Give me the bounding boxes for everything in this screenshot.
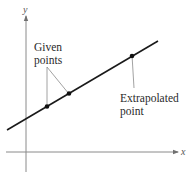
x-axis-label: x <box>180 146 186 157</box>
given-points-leader <box>47 67 69 107</box>
extrapolated-point-label-line1: Extrapolated <box>120 92 179 105</box>
y-axis-label: y <box>22 4 28 15</box>
extrapolated-point-label-line2: point <box>120 105 144 118</box>
extrapolated-point-leader <box>132 55 134 88</box>
extrapolated-point <box>130 54 135 59</box>
given-point-2 <box>67 91 72 96</box>
given-points-label-line2: points <box>34 54 63 67</box>
given-points-label-line1: Given <box>34 41 62 53</box>
diagram-canvas: x y Given points Extrapolated point <box>0 0 192 183</box>
extrapolation-diagram: x y Given points Extrapolated point <box>0 0 192 183</box>
given-point-1 <box>45 104 50 109</box>
